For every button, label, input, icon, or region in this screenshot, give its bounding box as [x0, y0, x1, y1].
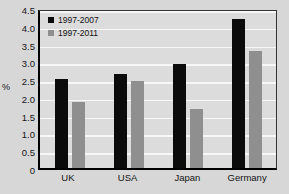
- bar: [55, 79, 68, 168]
- y-axis-tick-label: 3.0: [0, 59, 35, 68]
- bar: [72, 102, 85, 168]
- x-axis-tick-label: Japan: [158, 172, 218, 188]
- y-axis-tick-label: 3.5: [0, 41, 35, 50]
- y-axis-tick-labels: 00.51.01.52.02.53.03.54.04.5: [0, 0, 35, 194]
- bar: [190, 109, 203, 168]
- chart-legend: 1997-20071997-2011: [48, 15, 99, 38]
- legend-item: 1997-2007: [48, 15, 99, 25]
- y-axis-tick-label: 4.5: [0, 6, 35, 15]
- y-axis-tick-label: 4.0: [0, 23, 35, 32]
- x-axis-tick-label: UK: [38, 172, 98, 188]
- y-axis-tick-label: 0: [0, 166, 35, 175]
- bar: [173, 64, 186, 168]
- plot-area: 1997-20071997-2011: [38, 10, 277, 170]
- bar: [131, 81, 144, 168]
- bar: [114, 74, 127, 168]
- legend-label: 1997-2011: [58, 28, 98, 38]
- y-axis-tick-label: 1.5: [0, 112, 35, 121]
- bar-group: [158, 11, 217, 168]
- y-axis-tick-label: 1.0: [0, 130, 35, 139]
- legend-swatch-icon: [48, 17, 54, 23]
- x-axis-tick-label: USA: [98, 172, 158, 188]
- y-axis-tick-label: 2.0: [0, 94, 35, 103]
- legend-label: 1997-2007: [58, 15, 99, 25]
- bar: [232, 19, 245, 168]
- legend-item: 1997-2011: [48, 28, 99, 38]
- bar-group: [217, 11, 276, 168]
- bar-group: [99, 11, 158, 168]
- x-axis-category-labels: UKUSAJapanGermany: [38, 172, 277, 188]
- y-axis-tick-label: 2.5: [0, 77, 35, 86]
- y-axis-tick-label: 0.5: [0, 148, 35, 157]
- bar-chart-figure: % 00.51.01.52.02.53.03.54.04.5 1997-2007…: [0, 0, 289, 194]
- x-axis-tick-label: Germany: [217, 172, 277, 188]
- legend-swatch-icon: [48, 30, 54, 36]
- bar: [249, 51, 262, 168]
